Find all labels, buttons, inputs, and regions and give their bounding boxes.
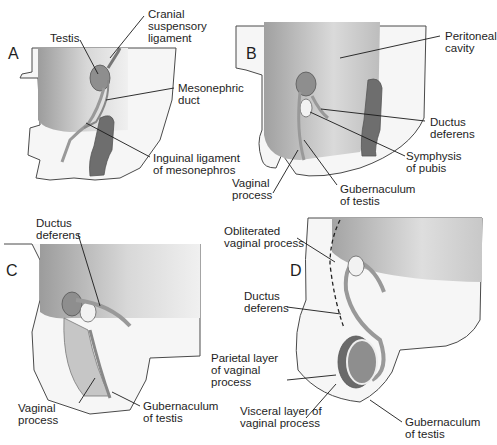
panel-label-a: A bbox=[8, 46, 19, 62]
label-mesonephric-duct: Mesonephric duct bbox=[178, 82, 244, 106]
label-symphysis-of-pubis: Symphysis of pubis bbox=[406, 150, 462, 174]
panel-label-b: B bbox=[246, 46, 257, 62]
label-testis-a: Testis bbox=[50, 32, 79, 44]
label-gubernaculum-of-testis-d: Gubernaculum of testis bbox=[405, 416, 480, 440]
testis-descent-figure: A B C D Testis Cranial suspensory ligame… bbox=[0, 0, 497, 445]
panel-label-c: C bbox=[6, 263, 18, 279]
label-parietal-layer-of-vaginal-process: Parietal layer of vaginal process bbox=[211, 352, 278, 388]
panel-label-d: D bbox=[290, 263, 302, 279]
label-gubernaculum-of-testis-c: Gubernaculum of testis bbox=[143, 400, 218, 424]
label-vaginal-process-b: Vaginal process bbox=[232, 177, 272, 201]
panel-c-drawing bbox=[4, 244, 200, 414]
label-ductus-deferens-c: Ductus deferens bbox=[36, 217, 81, 241]
label-vaginal-process-c: Vaginal process bbox=[18, 402, 58, 426]
panel-d-drawing bbox=[296, 218, 482, 402]
label-inguinal-ligament-of-mesonephros: Inguinal ligament of mesonephros bbox=[153, 152, 240, 176]
label-ductus-deferens-d: Ductus deferens bbox=[244, 290, 289, 314]
label-visceral-layer-of-vaginal-process: Visceral layer of vaginal process bbox=[240, 405, 322, 429]
label-gubernaculum-of-testis-b: Gubernaculum of testis bbox=[340, 183, 415, 207]
label-peritoneal-cavity: Peritoneal cavity bbox=[445, 30, 497, 54]
label-ductus-deferens-b: Ductus deferens bbox=[430, 116, 475, 140]
label-cranial-suspensory-ligament: Cranial suspensory ligament bbox=[148, 8, 207, 44]
label-obliterated-vaginal-process: Obliterated vaginal process bbox=[224, 225, 304, 249]
